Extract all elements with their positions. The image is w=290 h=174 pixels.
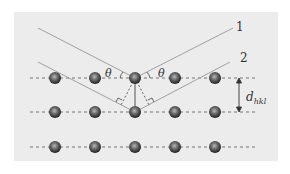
atom	[209, 72, 221, 84]
ray-1-label: 1	[236, 20, 244, 34]
atom	[169, 141, 181, 153]
bragg-diagram: 1 2 θ θ dhkl	[0, 0, 290, 174]
atom	[89, 72, 101, 84]
hkl-subscript: hkl	[254, 97, 267, 106]
atom	[129, 141, 141, 153]
atom	[169, 106, 181, 118]
atom	[89, 141, 101, 153]
atom	[209, 141, 221, 153]
atom	[49, 106, 61, 118]
atom	[209, 106, 221, 118]
theta-left-label: θ	[105, 67, 112, 80]
atom	[49, 72, 61, 84]
ray-2-label: 2	[240, 51, 248, 65]
atom	[129, 72, 141, 84]
diagram-panel	[14, 12, 278, 161]
atom	[169, 72, 181, 84]
theta-right-label: θ	[158, 67, 165, 80]
atom	[89, 106, 101, 118]
atom	[129, 106, 141, 118]
atom	[49, 141, 61, 153]
